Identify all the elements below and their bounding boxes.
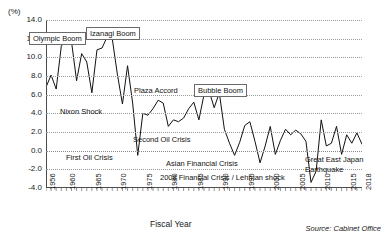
annotation-olympic-boom: Olympic Boom — [29, 32, 86, 45]
annotation-great-east-japan-earthquake: Great East Japan Earthquake — [305, 155, 385, 174]
gridline — [46, 132, 362, 133]
annotation-first-oil-crisis: First Oil Crisis — [66, 153, 113, 162]
annotation-bubble-boom: Bubble Boom — [194, 84, 247, 97]
annotation-second-oil-crisis: Second Oil Crisis — [133, 135, 191, 144]
gridline — [46, 57, 362, 58]
gridline — [46, 76, 362, 77]
y-axis-unit-label: (%) — [8, 7, 20, 16]
annotation-plaza-accord: Plaza Accord — [134, 86, 178, 95]
y-tick-label: 10.0 — [26, 53, 42, 61]
x-axis-minor-ticks — [46, 188, 362, 192]
gdp-growth-chart: (%) -4.0-2.00.02.04.06.08.010.012.014.0 … — [0, 0, 389, 238]
y-tick-label: 14.0 — [26, 16, 42, 24]
gridline — [46, 20, 362, 21]
x-axis-title: Fiscal Year — [150, 219, 192, 229]
gridline — [46, 151, 362, 152]
source-note: Source: Cabinet Office — [306, 224, 381, 233]
y-axis-tick-labels: -4.0-2.00.02.04.06.08.010.012.014.0 — [14, 20, 42, 188]
annotation-izanagi-boom: Izanagi Boom — [86, 27, 140, 40]
annotation-lehman-shock: 2008 Financial Crisis / Lehman shock — [160, 173, 285, 182]
x-tick-label: 2018 — [365, 173, 373, 190]
y-tick-label: 4.0 — [31, 109, 42, 117]
x-axis-tick-labels: 1956196019651970197519801985199019952000… — [46, 190, 362, 220]
y-tick-label: 8.0 — [31, 72, 42, 80]
y-tick-label: 6.0 — [31, 91, 42, 99]
annotation-nixon-shock: Nixon Shock — [60, 107, 102, 116]
y-tick-label: 2.0 — [31, 128, 42, 136]
y-tick-label: 0.0 — [31, 147, 42, 155]
annotation-asian-financial-crisis: Asian Financial Crisis — [166, 159, 238, 168]
y-tick-label: -2.0 — [28, 165, 42, 173]
y-tick-label: -4.0 — [28, 184, 42, 192]
